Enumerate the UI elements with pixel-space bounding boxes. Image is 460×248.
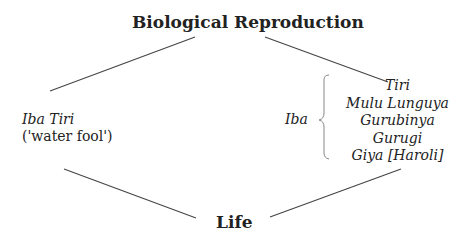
line-right-bottom: [270, 169, 401, 217]
top-node: Biological Reproduction: [132, 12, 364, 32]
right-item: Tiri: [335, 77, 460, 95]
right-node-list: Tiri Mulu Lunguya Gurubinya Gurugi Giya …: [335, 77, 460, 165]
right-item: Gurugi: [335, 130, 460, 148]
right-item: Giya [Haroli]: [335, 147, 460, 165]
left-node-name: Iba Tiri: [22, 111, 74, 127]
line-left-bottom: [64, 169, 196, 218]
right-item: Gurubinya: [335, 112, 460, 130]
left-node-gloss: ('water fool'): [22, 128, 113, 144]
line-top-left: [50, 37, 195, 91]
bottom-node: Life: [216, 212, 253, 232]
right-group-label: Iba: [285, 111, 308, 127]
right-item: Mulu Lunguya: [335, 95, 460, 113]
brace-icon: [319, 75, 329, 159]
